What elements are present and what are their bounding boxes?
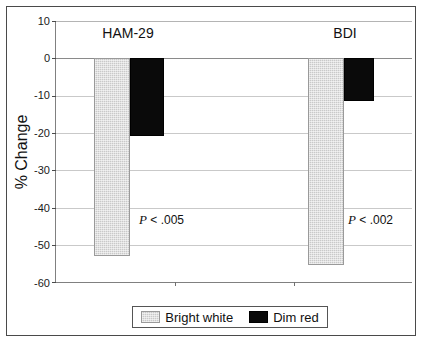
legend: Bright white Dim red bbox=[132, 306, 328, 328]
y-tick-label-0: 0 bbox=[15, 52, 50, 64]
plot-area bbox=[55, 21, 412, 283]
tick-mark-minus60 bbox=[52, 282, 56, 283]
legend-swatch-dim-red bbox=[249, 311, 268, 323]
tick-mark-10 bbox=[52, 21, 56, 22]
y-tick-label-10: 10 bbox=[15, 15, 50, 27]
y-axis-title-text: % Change bbox=[13, 115, 31, 190]
x-tick-mark-1 bbox=[175, 282, 176, 286]
y-tick-label-minus60: -60 bbox=[15, 277, 50, 289]
pvalue-ham29-symbol: P bbox=[139, 212, 147, 227]
bar-bdi-bright-white[interactable] bbox=[308, 58, 344, 265]
tick-mark-0 bbox=[52, 58, 56, 59]
legend-swatch-bright-white bbox=[141, 311, 160, 323]
tick-mark-minus40 bbox=[52, 208, 56, 209]
pvalue-ham29-rest: < .005 bbox=[147, 213, 184, 227]
tick-mark-minus50 bbox=[52, 245, 56, 246]
group-label-ham29: HAM-29 bbox=[102, 25, 153, 41]
tick-mark-minus20 bbox=[52, 133, 56, 134]
pvalue-bdi-rest: < .002 bbox=[356, 213, 393, 227]
group-label-bdi: BDI bbox=[333, 25, 356, 41]
gridline-10 bbox=[56, 21, 412, 22]
pvalue-ham29: P < .005 bbox=[139, 212, 184, 228]
legend-entry-bright-white[interactable]: Bright white bbox=[141, 310, 233, 325]
y-tick-label-minus10: -10 bbox=[15, 89, 50, 101]
legend-entry-dim-red[interactable]: Dim red bbox=[249, 310, 319, 325]
pvalue-bdi-symbol: P bbox=[348, 212, 356, 227]
tick-mark-minus10 bbox=[52, 96, 56, 97]
legend-label-bright-white: Bright white bbox=[165, 310, 233, 325]
y-tick-label-minus50: -50 bbox=[15, 239, 50, 251]
legend-label-dim-red: Dim red bbox=[273, 310, 319, 325]
x-tick-mark-2 bbox=[294, 282, 295, 286]
y-tick-label-minus40: -40 bbox=[15, 202, 50, 214]
chart-figure: % Change 10 0 -10 -20 -30 -40 -50 -60 bbox=[0, 0, 423, 343]
y-tick-label-minus20: -20 bbox=[15, 127, 50, 139]
y-tick-label-minus30: -30 bbox=[15, 164, 50, 176]
bar-bdi-dim-red[interactable] bbox=[344, 58, 374, 101]
bar-ham29-dim-red[interactable] bbox=[130, 58, 164, 136]
bar-ham29-bright-white[interactable] bbox=[94, 58, 130, 256]
tick-mark-minus30 bbox=[52, 170, 56, 171]
pvalue-bdi: P < .002 bbox=[348, 212, 393, 228]
